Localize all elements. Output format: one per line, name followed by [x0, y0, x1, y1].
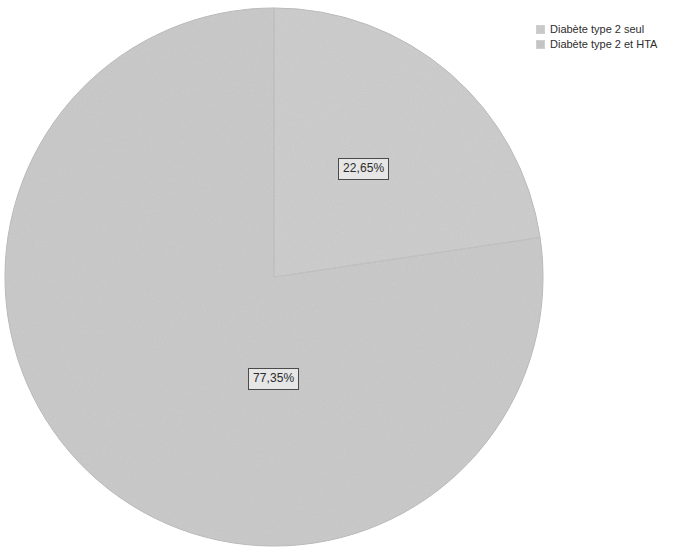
chart-legend: Diabète type 2 seul Diabète type 2 et HT…: [536, 22, 682, 52]
legend-item-0[interactable]: Diabète type 2 seul: [536, 22, 682, 36]
pie-grain-texture: [5, 8, 543, 546]
legend-label-0: Diabète type 2 seul: [550, 23, 644, 35]
legend-label-1: Diabète type 2 et HTA: [550, 38, 657, 50]
legend-swatch-icon-1: [536, 40, 545, 49]
legend-swatch-icon-0: [536, 25, 545, 34]
pie-slice-label-0: 22,65%: [338, 158, 389, 180]
pie-chart-graphic: [0, 0, 682, 558]
pie-chart: 22,65% 77,35% Diabète type 2 seul Diabèt…: [0, 0, 682, 558]
legend-item-1[interactable]: Diabète type 2 et HTA: [536, 37, 682, 51]
pie-slice-label-1: 77,35%: [248, 368, 299, 390]
